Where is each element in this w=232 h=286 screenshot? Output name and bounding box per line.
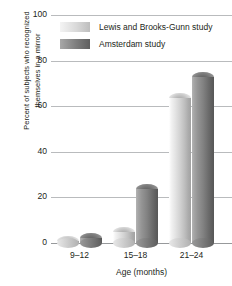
y-tick-label-0: 0 xyxy=(7,237,47,247)
bar-amsterdam-21-24 xyxy=(192,72,214,243)
legend-item-amsterdam: Amsterdam study xyxy=(60,37,212,51)
x-tick-label-21-24: 21–24 xyxy=(163,250,220,260)
bar-foot xyxy=(113,238,135,248)
bar-lewis-21-24 xyxy=(169,93,191,244)
bar-amsterdam-9-12 xyxy=(80,233,102,243)
bar-amsterdam-15-18 xyxy=(136,184,158,243)
bar-lewis-15-18 xyxy=(113,227,135,243)
legend-swatch-amsterdam-icon xyxy=(60,39,90,49)
y-axis-label-line1: Percent of subjects who recognized xyxy=(22,11,31,129)
y-tick-label-40: 40 xyxy=(7,146,47,156)
x-axis-label: Age (months) xyxy=(51,267,232,277)
bar-foot xyxy=(169,238,191,248)
gridline-100 xyxy=(51,15,232,16)
x-tick-label-9-12: 9–12 xyxy=(51,250,108,260)
bar-foot xyxy=(80,238,102,248)
legend-label-lewis: Lewis and Brooks-Gunn study xyxy=(99,22,212,32)
bar-foot xyxy=(192,238,214,248)
legend-label-amsterdam: Amsterdam study xyxy=(99,39,165,49)
legend-swatch-lewis-icon xyxy=(60,22,90,32)
bar-body xyxy=(169,98,191,244)
legend-item-lewis: Lewis and Brooks-Gunn study xyxy=(60,20,212,34)
gridline-80 xyxy=(51,61,232,62)
bar-body xyxy=(136,189,158,243)
y-axis-label-line2: themselves in a mirror xyxy=(32,0,43,161)
y-tick-label-80: 80 xyxy=(7,55,47,65)
y-tick-label-20: 20 xyxy=(7,191,47,201)
chart-legend: Lewis and Brooks-Gunn study Amsterdam st… xyxy=(60,20,212,54)
bar-body xyxy=(192,77,214,243)
y-tick-label-60: 60 xyxy=(7,100,47,110)
y-tick-label-100: 100 xyxy=(7,9,47,19)
y-axis-label: Percent of subjects who recognized thems… xyxy=(22,0,43,161)
bar-foot xyxy=(57,238,79,248)
bar-lewis-9-12 xyxy=(57,236,79,243)
x-tick-label-15-18: 15–18 xyxy=(107,250,164,260)
bar-chart-figure: Percent of subjects who recognized thems… xyxy=(0,0,232,286)
bar-foot xyxy=(136,238,158,248)
